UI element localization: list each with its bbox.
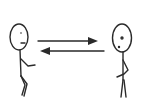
right-person-head <box>113 24 132 52</box>
right-person-leg-front <box>121 80 123 97</box>
right-person-figure <box>113 24 132 97</box>
right-person-leg-back <box>124 80 126 97</box>
right-person-mouth <box>118 46 120 48</box>
left-person-eye <box>20 32 22 34</box>
left-person-body <box>20 50 21 76</box>
left-person-figure <box>10 24 35 96</box>
interaction-diagram <box>0 0 143 106</box>
diagram-canvas <box>0 0 143 106</box>
arrow-left-head-icon <box>40 47 50 55</box>
arrow-right-head-icon <box>88 37 98 45</box>
arrow-right-to-left <box>40 47 104 55</box>
right-person-eye <box>121 37 123 39</box>
left-person-arm <box>21 59 35 66</box>
left-person-head <box>10 24 28 50</box>
arrow-left-to-right <box>38 37 98 45</box>
